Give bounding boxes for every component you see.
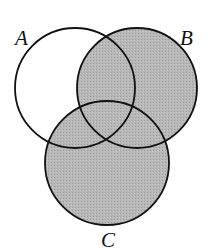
set-b-label: B bbox=[180, 28, 193, 49]
set-c-label: C bbox=[101, 230, 115, 251]
venn-diagram: A B C bbox=[0, 0, 212, 252]
set-a-label: A bbox=[15, 28, 28, 49]
